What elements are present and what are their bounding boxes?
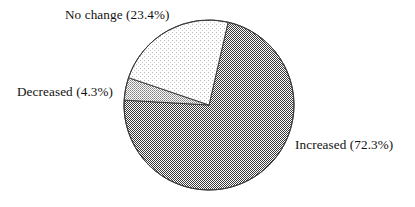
pie-chart-svg <box>0 0 415 207</box>
pie-chart-figure: No change (23.4%) Decreased (4.3%) Incre… <box>0 0 415 207</box>
pie-label-no-change: No change (23.4%) <box>65 7 170 22</box>
pie-label-increased: Increased (72.3%) <box>295 137 393 152</box>
pie-label-decreased: Decreased (4.3%) <box>17 84 113 99</box>
